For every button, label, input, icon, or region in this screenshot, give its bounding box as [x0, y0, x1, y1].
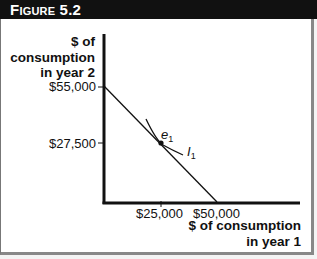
point-label: e1	[161, 127, 173, 144]
x-label-line2: in year 1	[189, 234, 302, 250]
y-label-line2: consumption	[10, 50, 95, 66]
x-label-line1: $ of consumption	[189, 218, 302, 234]
x-axis-label: $ of consumption in year 1	[189, 218, 302, 249]
y-label-line1: $ of	[10, 34, 95, 50]
x-tick-label-mid: $25,000	[136, 206, 183, 221]
y-tick-label-mid: $27,500	[49, 136, 96, 151]
y-tick-label-high: $55,000	[49, 79, 96, 94]
curve-label: I1	[187, 144, 196, 161]
y-axis-label: $ of consumption in year 2	[10, 34, 95, 81]
